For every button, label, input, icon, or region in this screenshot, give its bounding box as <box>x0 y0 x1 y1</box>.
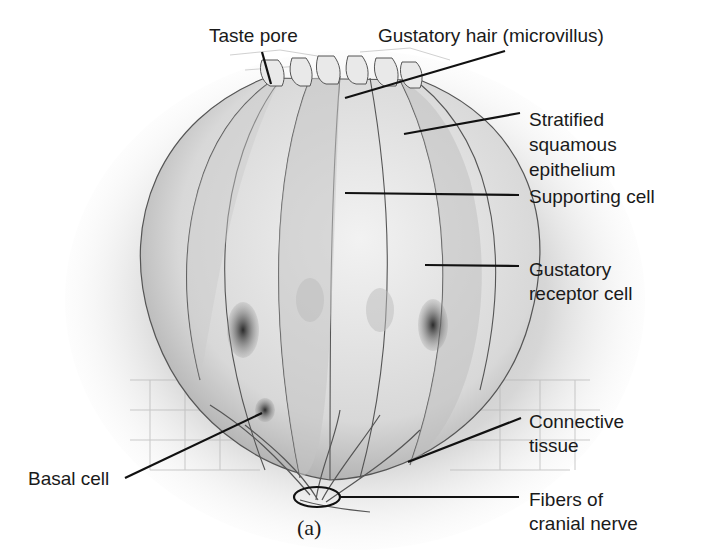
figure-caption: (a) <box>297 515 321 541</box>
label-gustatory-hair: Gustatory hair (microvillus) <box>378 25 604 47</box>
taste-bud-figure: Taste pore Gustatory hair (microvillus) … <box>0 0 708 557</box>
basal-cell-nucleus <box>255 398 275 422</box>
label-supporting-cell: Supporting cell <box>529 186 655 208</box>
label-connective-tissue: Connective tissue <box>529 410 624 458</box>
label-taste-pore: Taste pore <box>209 25 298 47</box>
label-gustatory-receptor-cell: Gustatory receptor cell <box>529 258 633 306</box>
label-fibers-of-cranial-nerve: Fibers of cranial nerve <box>529 488 638 536</box>
label-stratified-squamous-epithelium: Stratified squamous epithelium <box>529 107 617 182</box>
label-basal-cell: Basal cell <box>28 468 109 490</box>
